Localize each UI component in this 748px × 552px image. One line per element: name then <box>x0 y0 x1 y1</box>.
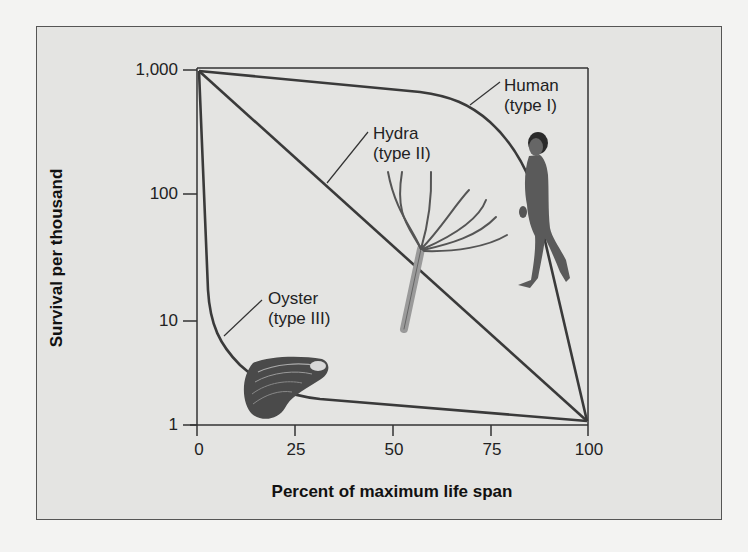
survivorship-plot <box>0 0 748 552</box>
x-tick-25: 25 <box>271 440 321 460</box>
oyster-illustration <box>244 357 329 419</box>
hydra-label-type: (type II) <box>373 144 431 164</box>
human-label: Human (type I) <box>504 76 559 116</box>
y-tick-100: 100 <box>118 184 178 204</box>
oyster-label: Oyster (type III) <box>268 289 330 329</box>
human-label-type: (type I) <box>504 96 559 116</box>
x-tick-0: 0 <box>174 440 224 460</box>
x-tick-50: 50 <box>369 440 419 460</box>
x-axis-title: Percent of maximum life span <box>272 482 513 502</box>
y-tick-10: 10 <box>118 311 178 331</box>
hydra-label-name: Hydra <box>373 124 431 144</box>
y-axis-title: Survival per thousand <box>47 169 67 348</box>
hydra-illustration <box>388 172 507 329</box>
x-tick-75: 75 <box>467 440 517 460</box>
human-label-name: Human <box>504 76 559 96</box>
x-tick-100: 100 <box>564 440 614 460</box>
oyster-label-type: (type III) <box>268 309 330 329</box>
x-ticks <box>295 425 491 436</box>
oyster-leader <box>224 300 262 336</box>
human-leader <box>470 82 500 105</box>
hydra-label: Hydra (type II) <box>373 124 431 164</box>
hydra-leader <box>327 132 368 183</box>
y-tick-1000: 1,000 <box>118 60 178 80</box>
human-figure-illustration <box>518 132 570 288</box>
y-tick-1: 1 <box>118 415 178 435</box>
oyster-label-name: Oyster <box>268 289 330 309</box>
y-ticks <box>183 70 197 425</box>
